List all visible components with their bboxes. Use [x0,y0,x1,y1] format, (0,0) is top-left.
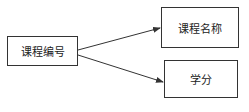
arrow-to-credit [78,55,163,82]
arrow-to-course-name [78,28,160,50]
figure-caption [0,104,249,112]
node-course-id: 课程编号 [7,36,78,66]
node-label: 课程编号 [21,43,65,59]
node-course-name: 课程名称 [161,7,239,48]
node-credit: 学分 [164,60,238,98]
node-label: 课程名称 [178,20,222,36]
node-label: 学分 [190,71,212,87]
